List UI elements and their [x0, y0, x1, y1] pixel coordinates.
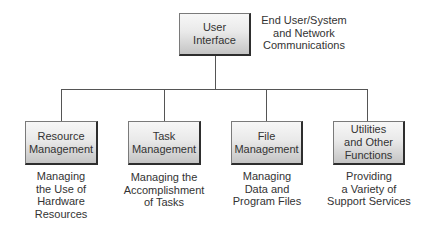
caption-line: Support Services	[322, 195, 416, 208]
child-connector-line-utilities	[367, 89, 368, 121]
caption-line: Managing	[222, 170, 312, 183]
box-label-line: Functions	[345, 149, 393, 162]
file-management-box: File Management	[231, 121, 303, 165]
resource-management-caption: Managing the Use of Hardware Resources	[21, 170, 101, 220]
root-connector-line	[215, 55, 216, 90]
resource-management-box: Resource Management	[25, 121, 98, 165]
caption-line: End User/System	[254, 14, 354, 27]
child-connector-line-resource	[61, 89, 62, 121]
caption-line: Communications	[254, 39, 354, 52]
utilities-functions-box: Utilities and Other Functions	[333, 121, 405, 165]
file-management-caption: Managing Data and Program Files	[222, 170, 312, 208]
caption-line: of Tasks	[119, 196, 209, 209]
box-label-line: File	[258, 130, 276, 143]
caption-line: Accomplishment	[119, 184, 209, 197]
box-label-line: Interface	[193, 34, 236, 47]
child-connector-line-task	[164, 89, 165, 121]
utilities-functions-caption: Providing a Variety of Support Services	[322, 170, 416, 208]
caption-line: Managing	[21, 170, 101, 183]
caption-line: Program Files	[222, 195, 312, 208]
horizontal-bus-line	[61, 89, 368, 90]
task-management-caption: Managing the Accomplishment of Tasks	[119, 171, 209, 209]
box-label-line: User	[203, 21, 226, 34]
caption-line: Data and	[222, 183, 312, 196]
child-connector-line-file	[266, 89, 267, 121]
box-label-line: Management	[234, 143, 298, 156]
box-label-line: Resource	[37, 130, 84, 143]
box-label-line: Utilities	[351, 123, 386, 136]
caption-line: Hardware	[21, 195, 101, 208]
caption-line: a Variety of	[322, 183, 416, 196]
caption-line: the Use of	[21, 183, 101, 196]
box-label-line: Management	[132, 143, 196, 156]
caption-line: Managing the	[119, 171, 209, 184]
caption-line: Providing	[322, 170, 416, 183]
box-label-line: and Other	[344, 136, 393, 149]
caption-line: Resources	[21, 208, 101, 221]
user-interface-box: User Interface	[179, 13, 251, 56]
box-label-line: Task	[153, 130, 176, 143]
task-management-box: Task Management	[128, 121, 201, 165]
caption-line: and Network	[254, 27, 354, 40]
box-label-line: Management	[29, 143, 93, 156]
user-interface-caption: End User/System and Network Communicatio…	[254, 14, 354, 52]
